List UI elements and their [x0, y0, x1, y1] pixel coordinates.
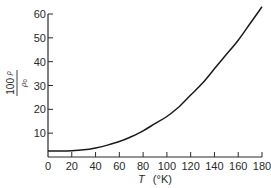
- x-ticks: 020406080100120140160180: [45, 152, 271, 172]
- resistivity-chart: 020406080100120140160180 102030405060 T …: [0, 0, 271, 188]
- y-tick-label: 50: [34, 32, 46, 44]
- svg-text:ρ0: ρ0: [19, 78, 28, 88]
- x-tick-label: 120: [181, 160, 199, 172]
- y-label-numerator-number: 100: [5, 78, 16, 95]
- y-tick-label: 30: [34, 80, 46, 92]
- x-tick-label: 80: [137, 160, 149, 172]
- y-ticks: 102030405060: [34, 8, 53, 139]
- y-tick-label: 60: [34, 8, 46, 20]
- x-tick-label: 60: [113, 160, 125, 172]
- x-tick-label: 160: [229, 160, 247, 172]
- x-axis-label-symbol: T: [138, 173, 146, 185]
- data-series-line: [48, 7, 262, 151]
- svg-text:100 ρ: 100 ρ: [5, 71, 16, 94]
- y-tick-label: 10: [34, 127, 46, 139]
- x-tick-label: 180: [253, 160, 271, 172]
- x-tick-label: 100: [158, 160, 176, 172]
- x-tick-label: 0: [45, 160, 51, 172]
- x-axis-label-unit: (°K): [153, 173, 172, 185]
- x-tick-label: 140: [205, 160, 223, 172]
- x-axis-label: T (°K): [138, 173, 172, 185]
- y-label-denominator-sub: 0: [22, 78, 28, 82]
- y-axis-label: 100 ρ ρ0: [5, 70, 28, 96]
- y-tick-label: 40: [34, 56, 46, 68]
- y-tick-label: 20: [34, 103, 46, 115]
- x-tick-label: 40: [89, 160, 101, 172]
- x-tick-label: 20: [66, 160, 78, 172]
- y-label-numerator-rho: ρ: [5, 71, 13, 76]
